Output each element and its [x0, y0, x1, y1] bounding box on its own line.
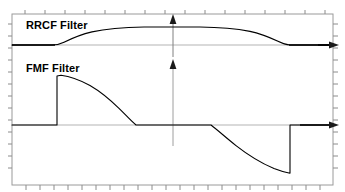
tick-marks-top [25, 10, 325, 14]
filter-response-figure: RRCF Filter FMF Filter [0, 0, 345, 192]
tick-marks-bottom [26, 185, 320, 190]
rrcf-filter-label: RRCF Filter [26, 19, 88, 31]
tick-marks-left [8, 24, 12, 168]
rrcf-vertical-axis [170, 14, 177, 57]
fmf-filter-label: FMF Filter [26, 62, 80, 74]
fmf-vertical-axis [170, 59, 177, 146]
